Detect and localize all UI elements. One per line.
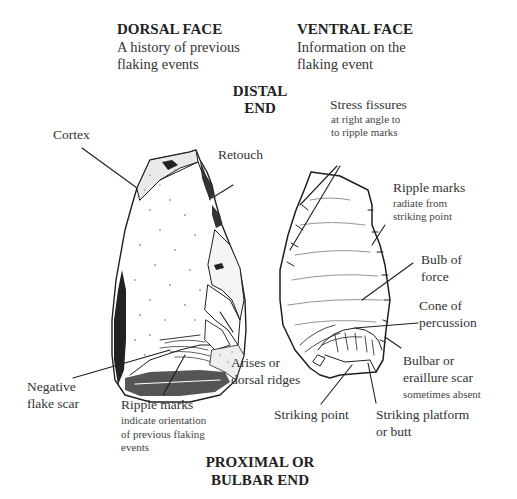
negative-flake-scar-label-2: flake scar	[27, 396, 79, 412]
proximal-end-label-1: PROXIMAL OR	[190, 454, 330, 471]
striking-platform-label-2: or butt	[376, 424, 412, 440]
dorsal-flake-drawing	[73, 148, 246, 402]
arises-label-1: Arises or	[231, 355, 280, 371]
distal-end-label-2: END	[230, 100, 290, 117]
arises-label-2: dorsal ridges	[231, 372, 300, 388]
stress-fissures-desc-1: at right angle to	[331, 113, 400, 126]
ventral-face-desc-2: flaking event	[297, 56, 373, 73]
lithic-flake-illustration	[0, 0, 517, 499]
bulb-of-force-label-1: Bulb of	[421, 252, 462, 268]
cone-of-percussion-label-2: percussion	[419, 315, 477, 331]
stress-fissures-title: Stress fissures	[330, 97, 407, 113]
bulbar-scar-leader	[385, 337, 401, 348]
cortex-label: Cortex	[53, 127, 90, 143]
retouch-label: Retouch	[218, 147, 263, 163]
bulbar-scar-desc: sometimes absent	[403, 388, 481, 401]
striking-platform-label-1: Striking platform	[376, 407, 469, 423]
proximal-end-label-2: BULBAR END	[190, 472, 330, 489]
cone-of-percussion-label-1: Cone of	[419, 298, 462, 314]
dorsal-ripple-marks-desc-1: indicate orientation	[121, 414, 206, 427]
ventral-ripple-marks-desc-1: radiate from	[393, 197, 447, 210]
dorsal-face-title: DORSAL FACE	[117, 21, 222, 38]
bulbar-scar-label-1: Bulbar or	[403, 353, 454, 369]
ventral-face-desc-1: Information on the	[297, 39, 406, 56]
dorsal-ripple-marks-title: Ripple marks	[121, 397, 193, 413]
bulb-of-force-label-2: force	[421, 269, 449, 285]
distal-end-label-1: DISTAL	[230, 83, 290, 100]
negative-flake-scar-label-1: Negative	[27, 379, 76, 395]
ventral-face-title: VENTRAL FACE	[297, 21, 413, 38]
dorsal-ripple-marks-desc-3: events	[121, 441, 149, 454]
dorsal-face-desc-1: A history of previous	[117, 39, 240, 56]
bulbar-scar-label-2: eraillure scar	[403, 370, 473, 386]
dorsal-face-desc-2: flaking events	[117, 56, 199, 73]
stress-fissures-desc-2: to ripple marks	[331, 126, 398, 139]
striking-point-label: Striking point	[274, 407, 349, 423]
retouch-leader	[212, 185, 233, 198]
ventral-ripple-marks-desc-2: striking point	[393, 210, 452, 223]
ventral-ripple-marks-title: Ripple marks	[393, 180, 465, 196]
dorsal-ripple-marks-desc-2: of previous flaking	[121, 428, 205, 441]
cortex-leader	[82, 148, 137, 188]
